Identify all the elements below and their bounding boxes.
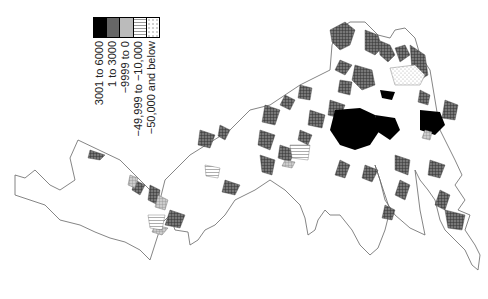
map-legend: 3001 to 6000 1 to 3000 −9999 to 0 −49,99… [93,17,160,38]
choropleth-map [0,0,488,299]
legend-label: 1 to 3000 [106,41,118,87]
swatch-3001-6000 [94,18,107,37]
swatch-1-3000 [107,18,120,37]
legend-label: −50,000 and below [145,41,157,134]
legend-label: 3001 to 6000 [93,41,105,105]
swatch-neg9999-0 [120,18,133,37]
region-outline [15,22,480,270]
legend-swatches [93,17,160,38]
legend-label: −9999 to 0 [119,41,131,93]
legend-label: −49,999 to −10,000 [132,41,144,136]
swatch-neg49999-neg10000 [134,18,147,37]
swatch-neg50000-below [147,18,159,37]
